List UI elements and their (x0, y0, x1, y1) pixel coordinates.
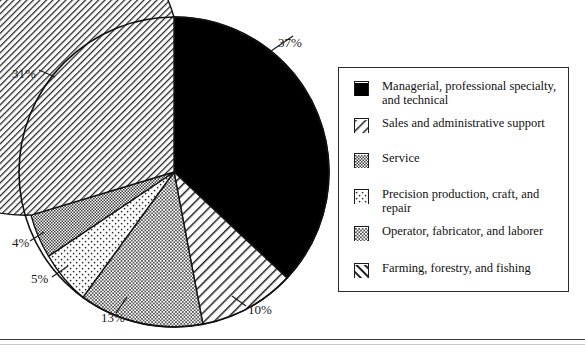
footer-rule (0, 339, 585, 340)
pie-label-4: 4% (12, 236, 29, 249)
pie-chart (0, 0, 340, 335)
footer-rule-light (0, 344, 585, 345)
legend-label-farming: Farming, forestry, and fishing (382, 262, 531, 276)
legend-label-service: Service (382, 152, 419, 166)
legend-swatch-diagonal-hatch-icon (354, 118, 369, 133)
pie-label-13: 13% (101, 311, 125, 324)
legend-label-managerial: Managerial, professional specialty, and … (382, 80, 568, 107)
pie-chart-figure: 37% 31% 4% 5% 13% 10% Managerial, profes… (0, 0, 585, 358)
legend-swatch-solid-black-icon (354, 81, 369, 96)
legend-item-managerial: Managerial, professional specialty, and … (354, 80, 568, 107)
legend-item-sales: Sales and administrative support (354, 117, 545, 133)
legend-label-precision: Precision production, craft, and repair (382, 188, 568, 215)
legend-item-service: Service (354, 152, 419, 168)
pie-label-37: 37% (278, 36, 302, 49)
pie-label-31: 31% (12, 67, 36, 80)
legend-item-precision: Precision production, craft, and repair (354, 188, 568, 215)
legend-item-farming: Farming, forestry, and fishing (354, 262, 531, 278)
legend-item-operator: Operator, fabricator, and laborer (354, 225, 543, 241)
legend-label-sales: Sales and administrative support (382, 117, 545, 131)
legend-swatch-checker-medium-icon (354, 226, 369, 241)
pie-label-10: 10% (248, 303, 272, 316)
pie-label-5: 5% (31, 272, 48, 285)
legend-swatch-dots-sparse-icon (354, 189, 369, 204)
legend-label-operator: Operator, fabricator, and laborer (382, 225, 543, 239)
chart-legend: Managerial, professional specialty, and … (338, 67, 569, 292)
legend-swatch-diagonal-wide-icon (354, 263, 369, 278)
legend-swatch-checker-fine-icon (354, 153, 369, 168)
